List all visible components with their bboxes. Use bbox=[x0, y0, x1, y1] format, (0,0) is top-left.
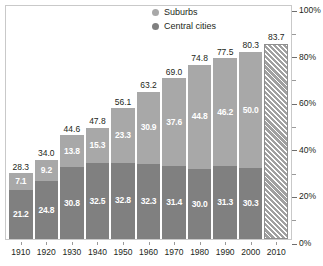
x-axis-tick-label: 1960 bbox=[137, 247, 161, 257]
bar-total-label: 47.8 bbox=[86, 117, 110, 126]
bar-segment-suburbs: 44.8 bbox=[188, 65, 212, 169]
bar-segment-central-cities: 30.3 bbox=[239, 168, 263, 239]
x-tick-mark bbox=[149, 242, 150, 245]
bar-total-label: 28.3 bbox=[9, 163, 33, 172]
bar-segment-suburbs: 7.1 bbox=[9, 173, 33, 190]
x-axis-tick: 1990 bbox=[213, 242, 237, 264]
x-tick-mark bbox=[174, 242, 175, 245]
bar-segment-value-suburbs: 7.1 bbox=[15, 177, 26, 186]
y-tick-mark bbox=[292, 174, 296, 175]
bar-segment-suburbs: 30.9 bbox=[137, 92, 161, 164]
bar-column[interactable]: 69.037.631.4 bbox=[162, 6, 186, 239]
bar-column[interactable]: 34.09.224.8 bbox=[35, 6, 59, 239]
y-axis-tick-label: 0% bbox=[299, 238, 311, 248]
bar-total-label: 77.5 bbox=[213, 48, 237, 57]
x-tick-mark bbox=[72, 242, 73, 245]
y-axis-tick-label: 100% bbox=[299, 5, 321, 15]
bar-segment-projected bbox=[264, 44, 288, 239]
bar-segment-value-suburbs: 9.2 bbox=[41, 166, 52, 175]
y-axis-tick-label: 60% bbox=[299, 98, 316, 108]
y-axis-tick-label: 20% bbox=[299, 191, 316, 201]
stacked-bar-chart: SuburbsCentral cities 28.37.121.234.09.2… bbox=[0, 0, 323, 266]
bar-segment-value-suburbs: 15.3 bbox=[90, 141, 106, 150]
bar-total-label: 69.0 bbox=[162, 68, 186, 77]
y-tick-mark bbox=[292, 80, 296, 81]
bar-segment-suburbs: 15.3 bbox=[86, 128, 110, 164]
y-tick-mark bbox=[292, 57, 297, 58]
x-axis-tick-label: 1920 bbox=[35, 247, 59, 257]
bar-segment-value-suburbs: 50.0 bbox=[243, 106, 259, 115]
bar-segment-value-central-cities: 32.5 bbox=[90, 197, 106, 206]
y-tick-mark bbox=[292, 11, 297, 12]
x-axis-tick: 1930 bbox=[60, 242, 84, 264]
bar-segment-suburbs: 46.2 bbox=[213, 58, 237, 166]
y-tick-mark bbox=[292, 220, 296, 221]
bar-segment-value-central-cities: 21.2 bbox=[13, 210, 29, 219]
bar-segment-central-cities: 24.8 bbox=[35, 181, 59, 239]
x-tick-mark bbox=[276, 242, 277, 245]
bar-segment-value-central-cities: 30.0 bbox=[192, 200, 208, 209]
bar-segment-value-central-cities: 32.8 bbox=[115, 196, 131, 205]
bar-column[interactable]: 44.613.830.8 bbox=[60, 6, 84, 239]
bar-column[interactable]: 77.546.231.3 bbox=[213, 6, 237, 239]
bar-segment-central-cities: 31.3 bbox=[213, 166, 237, 239]
bar-segment-central-cities: 31.4 bbox=[162, 166, 186, 239]
bar-total-label: 34.0 bbox=[35, 149, 59, 158]
bar-segment-suburbs: 13.8 bbox=[60, 135, 84, 167]
x-axis-tick-label: 1940 bbox=[86, 247, 110, 257]
x-tick-mark bbox=[225, 242, 226, 245]
x-axis-tick: 1980 bbox=[188, 242, 212, 264]
y-tick-mark bbox=[292, 34, 296, 35]
bar-segment-suburbs: 37.6 bbox=[162, 78, 186, 166]
bar-segment-value-central-cities: 30.8 bbox=[64, 199, 80, 208]
bar-segment-value-suburbs: 46.2 bbox=[217, 108, 233, 117]
y-tick-mark bbox=[292, 197, 297, 198]
x-axis-tick: 1970 bbox=[162, 242, 186, 264]
bar-segment-suburbs: 9.2 bbox=[35, 160, 59, 181]
x-axis-tick-label: 2010 bbox=[264, 247, 288, 257]
bar-segment-suburbs: 50.0 bbox=[239, 52, 263, 169]
y-tick-mark bbox=[292, 150, 297, 151]
bar-segment-value-central-cities: 31.3 bbox=[217, 198, 233, 207]
bar-segment-value-central-cities: 32.3 bbox=[141, 197, 157, 206]
bar-segment-central-cities: 32.5 bbox=[86, 163, 110, 239]
bar-segment-value-central-cities: 24.8 bbox=[38, 206, 54, 215]
bar-segment-central-cities: 30.8 bbox=[60, 167, 84, 239]
x-tick-mark bbox=[97, 242, 98, 245]
x-axis-tick: 2000 bbox=[239, 242, 263, 264]
x-tick-mark bbox=[46, 242, 47, 245]
x-tick-mark bbox=[123, 242, 124, 245]
x-axis: 1910192019301940195019601970198019902000… bbox=[6, 242, 291, 264]
bar-column[interactable]: 83.7 bbox=[264, 6, 288, 239]
x-axis-tick-label: 1990 bbox=[213, 247, 237, 257]
x-axis-tick-label: 1970 bbox=[162, 247, 186, 257]
x-axis-tick: 2010 bbox=[264, 242, 288, 264]
x-tick-mark bbox=[251, 242, 252, 245]
bar-total-label: 80.3 bbox=[239, 41, 263, 50]
bar-column[interactable]: 80.350.030.3 bbox=[239, 6, 263, 239]
bar-segment-value-central-cities: 30.3 bbox=[243, 199, 259, 208]
bar-segment-value-suburbs: 13.8 bbox=[64, 147, 80, 156]
bar-total-label: 74.8 bbox=[188, 54, 212, 63]
bar-segment-central-cities: 32.8 bbox=[111, 163, 135, 239]
bar-column[interactable]: 63.230.932.3 bbox=[137, 6, 161, 239]
bar-column[interactable]: 28.37.121.2 bbox=[9, 6, 33, 239]
bar-total-label: 63.2 bbox=[137, 81, 161, 90]
x-axis-tick-label: 1950 bbox=[111, 247, 135, 257]
bar-total-label: 83.7 bbox=[264, 33, 288, 42]
bar-column[interactable]: 47.815.332.5 bbox=[86, 6, 110, 239]
y-tick-mark bbox=[292, 104, 297, 105]
y-axis-tick-label: 80% bbox=[299, 52, 316, 62]
y-axis-tick-label: 40% bbox=[299, 145, 316, 155]
x-axis-tick: 1950 bbox=[111, 242, 135, 264]
bar-segment-suburbs: 23.3 bbox=[111, 108, 135, 162]
bar-column[interactable]: 56.123.332.8 bbox=[111, 6, 135, 239]
x-tick-mark bbox=[200, 242, 201, 245]
x-axis-tick-label: 1930 bbox=[60, 247, 84, 257]
x-axis-tick: 1920 bbox=[35, 242, 59, 264]
x-axis-tick-label: 1980 bbox=[188, 247, 212, 257]
bar-segment-central-cities: 32.3 bbox=[137, 164, 161, 239]
x-axis-tick: 1940 bbox=[86, 242, 110, 264]
bar-segment-value-central-cities: 31.4 bbox=[166, 198, 182, 207]
bar-column[interactable]: 74.844.830.0 bbox=[188, 6, 212, 239]
